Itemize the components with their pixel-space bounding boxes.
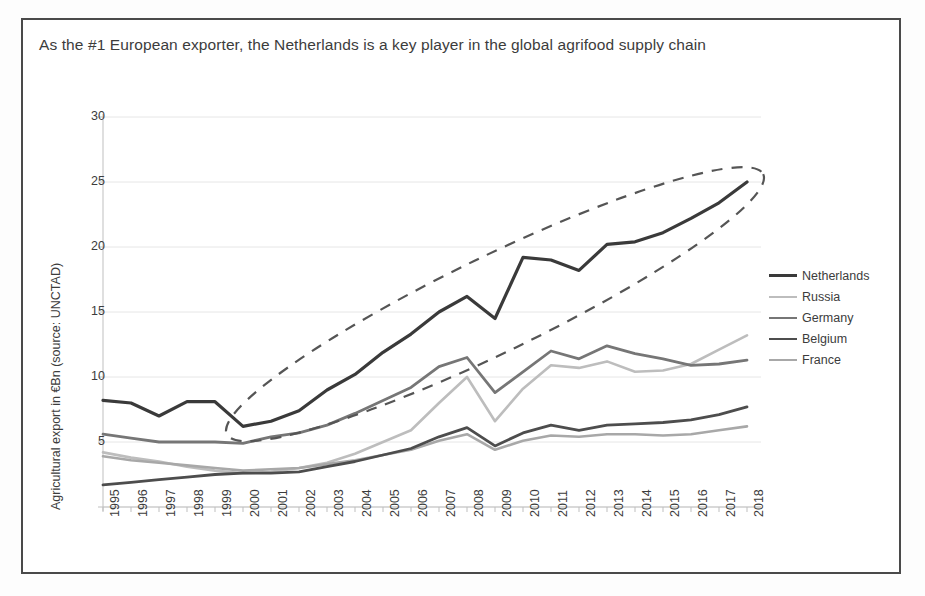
- x-tick-label: 2014: [640, 489, 654, 517]
- legend-item-label: Germany: [802, 311, 853, 325]
- x-tick-label: 2018: [752, 489, 766, 517]
- x-tick-label: 2003: [332, 489, 346, 517]
- x-tick-label: 2010: [528, 489, 542, 517]
- x-tick-label: 2006: [416, 489, 430, 517]
- x-tick-label: 2016: [696, 489, 710, 517]
- y-tick-label: 25: [65, 174, 105, 188]
- x-tick-label: 1997: [164, 489, 178, 517]
- legend-item-netherlands[interactable]: Netherlands: [769, 265, 869, 286]
- y-tick-label: 30: [65, 109, 105, 123]
- legend-item-label: Belgium: [802, 332, 847, 346]
- x-tick-label: 2001: [276, 489, 290, 517]
- x-tick-label: 1999: [220, 489, 234, 517]
- highlight-ellipse-annotation: [206, 131, 784, 477]
- legend-item-label: Russia: [802, 290, 840, 304]
- x-tick-label: 2015: [668, 489, 682, 517]
- y-tick-label: 5: [65, 434, 105, 448]
- x-tick-label: 1995: [108, 489, 122, 517]
- legend-swatch-icon: [769, 274, 797, 277]
- x-tick-label: 2002: [304, 489, 318, 517]
- series-line-netherlands: [103, 182, 747, 426]
- legend-item-label: Netherlands: [802, 269, 869, 283]
- series-line-france: [103, 426, 747, 470]
- scanned-page: As the #1 European exporter, the Netherl…: [0, 0, 925, 596]
- legend-swatch-icon: [769, 317, 797, 319]
- legend-item-russia[interactable]: Russia: [769, 286, 869, 307]
- y-tick-label: 20: [65, 239, 105, 253]
- x-tick-label: 2004: [360, 489, 374, 517]
- slide-frame: As the #1 European exporter, the Netherl…: [21, 18, 901, 574]
- x-tick-label: 2012: [584, 489, 598, 517]
- legend-swatch-icon: [769, 338, 797, 340]
- x-tick-label: 2009: [500, 489, 514, 517]
- x-tick-label: 2005: [388, 489, 402, 517]
- legend-item-belgium[interactable]: Belgium: [769, 328, 869, 349]
- x-tick-label: 2013: [612, 489, 626, 517]
- x-tick-label: 2007: [444, 489, 458, 517]
- chart-legend: NetherlandsRussiaGermanyBelgiumFrance: [769, 265, 869, 370]
- x-tick-label: 2008: [472, 489, 486, 517]
- legend-swatch-icon: [769, 296, 797, 298]
- legend-swatch-icon: [769, 359, 797, 361]
- x-tick-label: 1996: [136, 489, 150, 517]
- series-line-germany: [103, 346, 747, 444]
- legend-item-france[interactable]: France: [769, 349, 869, 370]
- x-tick-label: 2017: [724, 489, 738, 517]
- y-axis-tick-labels: 51015202530: [59, 20, 105, 572]
- y-tick-label: 15: [65, 304, 105, 318]
- legend-item-label: France: [802, 353, 841, 367]
- y-tick-label: 10: [65, 369, 105, 383]
- x-tick-label: 1998: [192, 489, 206, 517]
- chart-plot-area: Agricultural export in €Bn (source: UNCT…: [23, 20, 903, 572]
- legend-item-germany[interactable]: Germany: [769, 307, 869, 328]
- x-tick-label: 2000: [248, 489, 262, 517]
- x-tick-label: 2011: [556, 490, 570, 517]
